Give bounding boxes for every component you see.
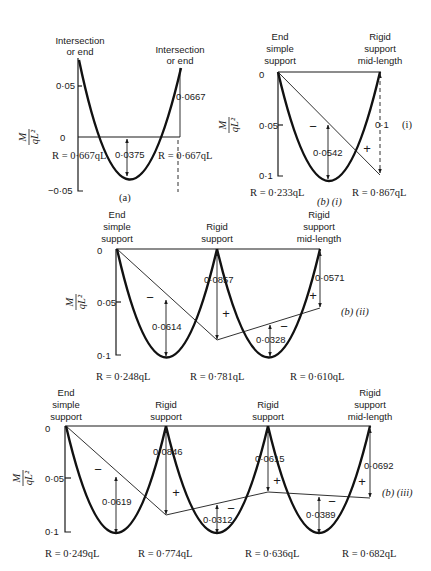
panel-a-end-value: 0·0667 bbox=[176, 91, 206, 102]
panel-b2-reaction-2: R = 0·781qL bbox=[190, 371, 244, 382]
panel-b1-left-label-3: support bbox=[264, 55, 296, 66]
panel-b2: End simple support Rigid support Rigid s… bbox=[64, 209, 369, 382]
svg-text:M: M bbox=[17, 131, 28, 142]
panel-b1-right-label-2: support bbox=[364, 43, 396, 54]
panel-b3-minus-1: − bbox=[94, 462, 102, 477]
panel-b1-reaction-right: R = 0·867qL bbox=[352, 187, 406, 198]
panel-b2-span1-value: 0·0614 bbox=[152, 321, 182, 332]
panel-b1-ylabel: M qL² bbox=[217, 117, 240, 133]
panel-b1-caption: (b) (i) bbox=[317, 196, 342, 208]
panel-b3-reaction-3: R = 0·636qL bbox=[245, 548, 299, 559]
panel-b1-left-label-2: simple bbox=[266, 43, 293, 54]
panel-a-left-label-1: Intersection bbox=[55, 35, 104, 46]
panel-b1-right-label-3: mid-length bbox=[358, 55, 402, 66]
panel-b3-tick-01: 0·1 bbox=[45, 526, 59, 537]
panel-b3-tick-0: 0 bbox=[45, 423, 50, 434]
panel-b1-tick-005: 0·05 bbox=[259, 120, 278, 131]
panel-b3-plus-2: + bbox=[273, 473, 281, 488]
panel-b1-right-label-1: Rigid bbox=[369, 31, 391, 42]
panel-b1-left-label-1: End bbox=[272, 31, 289, 42]
panel-b1-plus-sign: + bbox=[363, 141, 371, 156]
panel-b3-label-rigid2-2: support bbox=[252, 411, 284, 422]
panel-b2-label-mid-1: Rigid bbox=[308, 209, 330, 220]
panel-b2-end-value: 0·0571 bbox=[315, 272, 345, 283]
panel-b3-label-mid-2: support bbox=[354, 399, 386, 410]
panel-b3: End simple support Rigid support Rigid s… bbox=[11, 387, 413, 559]
panel-a-tick-label-neg005: −0·05 bbox=[48, 185, 73, 196]
panel-a-right-label-2: or end bbox=[167, 55, 194, 66]
panel-a-left-label-2: or end bbox=[67, 46, 94, 57]
panel-b3-label-end-1: End bbox=[58, 387, 75, 398]
panel-b3-label-mid-3: mid-length bbox=[348, 411, 392, 422]
panel-b3-label-end-3: support bbox=[50, 411, 82, 422]
panel-b3-reaction-4: R = 0·682qL bbox=[342, 548, 396, 559]
panel-b3-plus-3: + bbox=[358, 474, 366, 489]
bending-moment-diagrams: Intersection or end Intersection or end … bbox=[0, 0, 431, 571]
panel-b1-closing-line bbox=[278, 72, 380, 175]
panel-b3-span1-value: 0·0619 bbox=[102, 496, 132, 507]
panel-b2-tick-0: 0 bbox=[97, 245, 102, 256]
panel-a-tick-label-005: 0·05 bbox=[56, 80, 75, 91]
panel-b2-plus-2: + bbox=[309, 288, 317, 303]
panel-b3-ylabel: M qL² bbox=[11, 470, 34, 486]
panel-b2-tick-01: 0·1 bbox=[97, 350, 111, 361]
panel-b3-label-end-2: simple bbox=[52, 399, 79, 410]
panel-a-mid-value: 0·0375 bbox=[115, 149, 145, 160]
panel-b2-label-end-3: support bbox=[101, 233, 133, 244]
panel-b1: End simple support Rigid support mid-len… bbox=[217, 31, 412, 208]
panel-b1-tick-01: 0·1 bbox=[259, 170, 273, 181]
svg-text:qL²: qL² bbox=[23, 470, 34, 485]
panel-b2-label-rigid-2: support bbox=[201, 233, 233, 244]
panel-b1-moment-curve bbox=[278, 72, 380, 181]
panel-b3-label-rigid2-1: Rigid bbox=[257, 399, 279, 410]
panel-b3-support2-value: 0·0615 bbox=[255, 453, 285, 464]
panel-b3-minus-3: − bbox=[328, 494, 336, 509]
panel-b1-span-value: 0·0542 bbox=[313, 147, 343, 158]
panel-b2-curve-span1 bbox=[117, 249, 217, 358]
panel-b2-label-mid-2: support bbox=[303, 221, 335, 232]
panel-b3-caption: (b) (iii) bbox=[382, 487, 413, 499]
panel-b1-tick-0: 0 bbox=[259, 69, 264, 80]
panel-a-caption: (a) bbox=[119, 192, 131, 204]
svg-text:qL²: qL² bbox=[29, 129, 40, 144]
panel-b3-tick-005: 0·05 bbox=[45, 473, 64, 484]
panel-b3-span3-value: 0·0389 bbox=[306, 509, 336, 520]
panel-a-reaction-left: R = 0·667qL bbox=[52, 150, 106, 161]
panel-b2-minus-1: − bbox=[146, 290, 154, 305]
panel-a-ylabel: M qL² bbox=[17, 129, 40, 145]
panel-b3-minus-2: − bbox=[227, 501, 235, 516]
panel-a-reaction-right: R = 0·667qL bbox=[158, 150, 212, 161]
svg-text:qL²: qL² bbox=[76, 294, 87, 309]
panel-b2-span2-value: 0·0328 bbox=[256, 334, 286, 345]
svg-text:M: M bbox=[217, 119, 228, 130]
panel-b2-plus-1: + bbox=[222, 306, 230, 321]
panel-b2-caption: (b) (ii) bbox=[341, 306, 369, 318]
panel-b1-end-value: 0·1 bbox=[375, 119, 389, 130]
panel-b3-reaction-2: R = 0·774qL bbox=[138, 548, 192, 559]
panel-b1-minus-sign: − bbox=[309, 119, 317, 134]
panel-b3-end-value: 0·0692 bbox=[364, 460, 394, 471]
panel-b2-support-value: 0·0857 bbox=[204, 274, 234, 285]
panel-b2-reaction-1: R = 0·248qL bbox=[96, 371, 150, 382]
panel-b2-label-rigid-1: Rigid bbox=[206, 221, 228, 232]
panel-b2-reaction-3: R = 0·610qL bbox=[290, 371, 344, 382]
panel-b2-label-end-1: End bbox=[109, 209, 126, 220]
panel-b1-side-tag: (i) bbox=[402, 119, 412, 131]
panel-a-moment-curve bbox=[79, 60, 181, 180]
panel-b2-label-end-2: simple bbox=[103, 221, 130, 232]
svg-text:qL²: qL² bbox=[229, 117, 240, 132]
panel-a-tick-label-0: 0 bbox=[60, 132, 65, 143]
panel-b3-reaction-1: R = 0·249qL bbox=[45, 548, 99, 559]
panel-b3-label-rigid1-2: support bbox=[150, 411, 182, 422]
panel-a-right-label-1: Intersection bbox=[155, 44, 204, 55]
panel-b2-ylabel: M qL² bbox=[64, 294, 87, 310]
panel-b3-plus-1: + bbox=[172, 485, 180, 500]
svg-text:M: M bbox=[11, 472, 22, 483]
panel-a: Intersection or end Intersection or end … bbox=[17, 35, 212, 204]
panel-b1-reaction-left: R = 0·233qL bbox=[250, 187, 304, 198]
panel-b3-label-rigid1-1: Rigid bbox=[155, 399, 177, 410]
panel-b2-label-mid-3: mid-length bbox=[297, 233, 341, 244]
panel-b2-tick-005: 0·05 bbox=[97, 297, 116, 308]
panel-b2-minus-2: − bbox=[280, 319, 288, 334]
panel-b3-label-mid-1: Rigid bbox=[359, 387, 381, 398]
